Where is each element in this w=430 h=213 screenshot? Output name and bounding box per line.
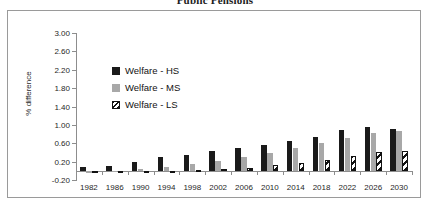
bar-welfare-ms	[112, 171, 117, 172]
x-tick-label: 2018	[313, 183, 331, 192]
bar-welfare-hs	[261, 145, 266, 171]
x-tick-label: 2030	[390, 183, 408, 192]
bar-welfare-ms	[371, 133, 376, 171]
bar-welfare-ls	[325, 160, 330, 171]
y-tick-label: 0.20	[54, 157, 70, 166]
y-tick-label: 1.40	[54, 102, 70, 111]
bar-group	[231, 33, 257, 180]
bar-welfare-ms	[86, 171, 91, 173]
y-tick-label: 0.60	[54, 139, 70, 148]
bar-welfare-ls	[351, 156, 356, 171]
bar-welfare-ls	[273, 165, 278, 171]
x-tick-label: 1994	[158, 183, 176, 192]
bar-group	[179, 33, 205, 180]
legend-label: Welfare - HS	[125, 65, 179, 76]
y-axis-label: % difference	[24, 57, 33, 131]
x-tick-mark	[283, 171, 284, 175]
chart-screenshot: Public Pensions % difference 3.002.602.2…	[0, 0, 430, 213]
bar-welfare-ms	[319, 143, 324, 171]
bar-welfare-ms	[241, 157, 246, 171]
legend-swatch-icon	[112, 101, 120, 109]
x-tick-mark	[128, 171, 129, 175]
x-tick-label: 2014	[287, 183, 305, 192]
bar-group	[309, 33, 335, 180]
bar-group	[360, 33, 386, 180]
y-tick-label: 1.00	[54, 120, 70, 129]
chart-frame: % difference 3.002.602.201.801.401.000.6…	[7, 10, 421, 198]
bar-welfare-ls	[170, 171, 175, 173]
bar-welfare-hs	[184, 155, 189, 171]
bar-welfare-ms	[164, 167, 169, 171]
legend-item[interactable]: Welfare - MS	[112, 79, 180, 96]
x-tick-mark	[231, 171, 232, 175]
bar-group	[283, 33, 309, 180]
bar-welfare-ms	[215, 161, 220, 171]
legend-swatch-icon	[112, 67, 120, 75]
x-tick-mark	[154, 171, 155, 175]
bar-welfare-hs	[80, 167, 85, 171]
chart-title: Public Pensions	[0, 0, 430, 6]
x-tick-mark	[309, 171, 310, 175]
bar-welfare-hs	[132, 162, 137, 171]
y-tick-label: -0.20	[52, 176, 70, 185]
bar-welfare-ms	[396, 131, 401, 171]
bar-welfare-hs	[365, 127, 370, 171]
bar-group	[257, 33, 283, 180]
y-tick-label: 3.00	[54, 29, 70, 38]
bar-welfare-hs	[209, 151, 214, 171]
bar-welfare-hs	[339, 130, 344, 170]
x-tick-mark	[334, 171, 335, 175]
bar-welfare-hs	[235, 148, 240, 171]
bar-group	[334, 33, 360, 180]
legend-label: Welfare - LS	[125, 99, 178, 110]
bar-welfare-ls	[299, 163, 304, 171]
bar-welfare-ms	[190, 164, 195, 170]
y-tick-label: 2.60	[54, 47, 70, 56]
x-tick-mark	[179, 171, 180, 175]
y-tick-label: 2.20	[54, 65, 70, 74]
bar-welfare-ms	[293, 148, 298, 171]
legend-label: Welfare - MS	[125, 82, 180, 93]
bar-welfare-ls	[118, 171, 123, 173]
legend-item[interactable]: Welfare - HS	[112, 62, 180, 79]
x-tick-label: 1990	[132, 183, 150, 192]
x-tick-label: 1998	[183, 183, 201, 192]
bar-welfare-ls	[247, 168, 252, 171]
x-tick-label: 2006	[235, 183, 253, 192]
x-tick-label: 2026	[364, 183, 382, 192]
x-tick-mark	[386, 171, 387, 175]
bar-group	[386, 33, 412, 180]
bar-welfare-hs	[158, 157, 163, 171]
bar-welfare-ls	[144, 171, 149, 173]
bar-welfare-hs	[313, 137, 318, 171]
bar-welfare-ms	[138, 169, 143, 171]
y-tick-label: 1.80	[54, 84, 70, 93]
x-tick-mark	[257, 171, 258, 175]
legend-item[interactable]: Welfare - LS	[112, 96, 180, 113]
bar-welfare-hs	[287, 141, 292, 171]
x-tick-mark	[205, 171, 206, 175]
x-tick-label: 2022	[338, 183, 356, 192]
bar-welfare-hs	[106, 166, 111, 171]
bar-welfare-ms	[345, 138, 350, 171]
x-tick-mark	[360, 171, 361, 175]
bar-welfare-ls	[92, 171, 97, 173]
y-tick-mark	[72, 180, 77, 181]
bar-welfare-ls	[196, 170, 201, 172]
x-tick-label: 1982	[80, 183, 98, 192]
x-tick-mark	[102, 171, 103, 175]
bar-group	[205, 33, 231, 180]
x-tick-mark	[412, 171, 413, 175]
bar-welfare-ms	[267, 153, 272, 170]
x-tick-label: 2002	[209, 183, 227, 192]
bar-welfare-ls	[376, 152, 381, 170]
x-axis-labels: 1982198619901994199820022006201020142018…	[76, 183, 412, 197]
bar-welfare-ls	[221, 169, 226, 171]
chart-legend: Welfare - HSWelfare - MSWelfare - LS	[112, 62, 180, 113]
x-tick-mark	[76, 171, 77, 175]
bar-group	[76, 33, 102, 180]
legend-swatch-icon	[112, 84, 120, 92]
x-tick-label: 2010	[261, 183, 279, 192]
bar-welfare-hs	[390, 129, 395, 171]
bar-welfare-ls	[402, 151, 407, 171]
